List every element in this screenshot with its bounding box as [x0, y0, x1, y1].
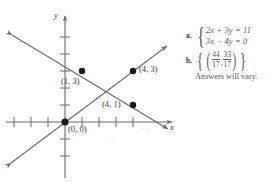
point-label-4-3: (4, 3): [139, 64, 158, 74]
equation-line-1: 2x + 3y = 11: [206, 25, 251, 36]
y-axis-label: y: [54, 10, 58, 20]
point-4-3: [130, 68, 136, 74]
answer-item-a: a. { 2x + 3y = 11 3x − 4y = 0: [186, 25, 278, 47]
point-4-1: [130, 102, 136, 108]
equation-line-2: 3x − 4y = 0: [206, 36, 251, 47]
fraction-33-17: 33 17: [223, 51, 231, 68]
point-label-1-3: (1, 3): [61, 76, 80, 86]
fraction-denominator: 17: [212, 59, 219, 68]
x-axis-label: x: [170, 122, 174, 132]
y-axis: [60, 16, 70, 178]
figure-container: (1, 3) (4, 3) (4, 1) (0, 0) y x · ·~ , ·…: [0, 0, 278, 183]
falling-line: [12, 35, 168, 129]
x-axis: [6, 117, 172, 127]
coordinate-graph: [0, 0, 186, 183]
answer-a-key: a.: [186, 25, 195, 40]
fraction-numerator: 33: [223, 51, 230, 59]
answers-vary-note: Answers will vary.: [195, 72, 278, 81]
fraction-denominator: 17: [223, 59, 230, 68]
point-label-4-1: (4, 1): [102, 99, 121, 109]
fraction-numerator: 44: [212, 51, 219, 59]
fraction-44-17: 44 17: [212, 51, 220, 68]
point-1-3: [79, 68, 85, 74]
answer-item-b: b. { ( 44 17 , 33 17 ) }: [186, 51, 278, 68]
solution-set: { ( 44 17 , 33 17 ) }: [195, 51, 248, 68]
answer-b-key: b.: [186, 51, 195, 65]
point-label-0-0: (0, 0): [68, 124, 87, 134]
answer-key: a. { 2x + 3y = 11 3x − 4y = 0 b. { ( 44 …: [186, 25, 278, 81]
system-of-equations: { 2x + 3y = 11 3x − 4y = 0: [195, 25, 251, 47]
